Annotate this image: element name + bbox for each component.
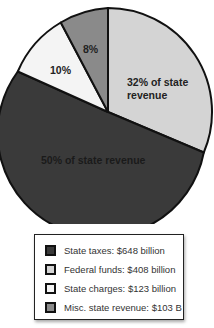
- legend-item-federal-funds: Federal funds: $408 billion: [45, 260, 183, 279]
- slice-label-federal-2: revenue: [127, 89, 167, 101]
- legend-swatch: [45, 302, 56, 313]
- legend-item-state-taxes: State taxes: $648 billion: [45, 241, 183, 260]
- legend-item-state-charges: State charges: $123 billion: [45, 279, 183, 298]
- legend-swatch: [45, 245, 56, 256]
- legend-label: Federal funds: $408 billion: [64, 264, 175, 275]
- pie-chart: 32% of state revenue 50% of state revenu…: [0, 0, 214, 224]
- slice-label-federal: 32% of state: [127, 76, 188, 88]
- legend-swatch: [45, 283, 56, 294]
- legend-item-misc-revenue: Misc. state revenue: $103 B: [45, 298, 183, 317]
- legend: State taxes: $648 billion Federal funds:…: [34, 234, 184, 320]
- legend-label: State taxes: $648 billion: [64, 245, 165, 256]
- legend-swatch: [45, 264, 56, 275]
- legend-label: State charges: $123 billion: [64, 283, 176, 294]
- slice-label-charges: 10%: [50, 64, 72, 76]
- slice-label-taxes: 50% of state revenue: [41, 154, 146, 166]
- legend-label: Misc. state revenue: $103 B: [64, 302, 182, 313]
- slice-label-misc: 8%: [83, 43, 99, 55]
